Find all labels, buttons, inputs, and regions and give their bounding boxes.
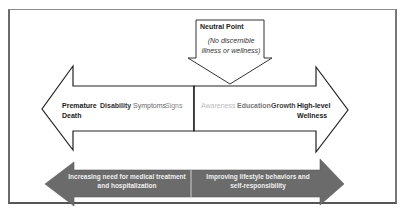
label-signs: Signs	[165, 100, 183, 111]
neutral-point-subtitle: (No discernible illness or wellness)	[200, 36, 262, 56]
label-wellness: Wellness	[297, 110, 327, 121]
wellness-direction-text: Improving lifestyle behaviors and self-r…	[196, 172, 320, 190]
neutral-point-title: Neutral Point	[200, 21, 244, 32]
label-death: Death	[62, 110, 81, 121]
label-symptoms: Symptoms	[133, 100, 166, 111]
label-disability: Disability	[100, 100, 131, 111]
illness-direction-text: Increasing need for medical treatment an…	[64, 172, 190, 190]
label-education: Education	[237, 100, 271, 111]
wellness-direction-line1: Improving lifestyle behaviors and	[196, 172, 320, 181]
illness-direction-line2: and hospitalization	[64, 181, 190, 190]
wellness-direction-line2: self-responsibility	[196, 181, 320, 190]
label-growth: Growth	[271, 100, 296, 111]
illness-direction-line1: Increasing need for medical treatment	[64, 172, 190, 181]
label-awareness: Awareness	[201, 100, 236, 111]
